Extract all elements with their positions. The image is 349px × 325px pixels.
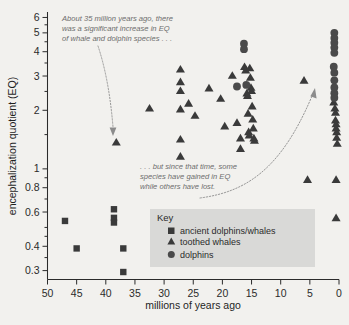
point-ancient-dolphin-whale [111,206,117,212]
x-tick-label-3: 35 [129,287,141,299]
point-dolphin [330,49,338,57]
annotation-increase-line-1: About 35 million years ago, there [61,14,173,23]
scatter-plot: 6543210.80.60.40.3 50454035302520151050 … [0,0,349,325]
annotation-increase-line-3: of whale and dolphin species . . . [62,34,172,43]
legend-circle-marker [168,251,175,258]
point-dolphin [233,83,241,91]
point-dolphin [240,45,248,53]
x-tick-label-0: 50 [42,287,54,299]
annotation-divergence-line-3: while others have lost. [140,182,215,191]
y-tick-label-4: 2 [34,104,40,116]
point-ancient-dolphin-whale [73,245,79,251]
point-ancient-dolphin-whale [120,269,126,275]
legend: Key ancient dolphins/whales toothed whal… [150,209,315,267]
point-ancient-dolphin-whale [111,219,117,225]
annotation-divergence-line-2: species have gained in EQ [140,172,230,181]
x-tick-label-10: 0 [336,287,342,299]
y-tick-label-3: 3 [34,70,40,82]
y-tick-label-0: 6 [34,11,40,23]
y-tick-label-8: 0.4 [25,240,40,252]
x-tick-label-1: 45 [71,287,83,299]
x-tick-label-5: 25 [187,287,199,299]
x-tick-label-4: 30 [158,287,170,299]
x-tick-label-6: 20 [217,287,229,299]
x-tick-label-8: 10 [275,287,287,299]
legend-title: Key [157,212,174,223]
y-tick-label-2: 4 [34,45,40,57]
annotation-increase-line-2: was a significant increase in EQ [62,24,170,33]
y-tick-label-5: 1 [34,162,40,174]
x-tick-label-2: 40 [100,287,112,299]
y-tick-label-9: 0.3 [25,264,40,276]
legend-label-toothed: toothed whales [180,237,241,247]
point-dolphin [330,69,338,77]
legend-label-ancient: ancient dolphins/whales [180,226,276,236]
legend-square-marker [168,228,175,235]
annotation-divergence-line-1: . . . but since that time, some [140,162,237,171]
point-dolphin [242,81,250,89]
y-tick-label-6: 0.8 [25,181,40,193]
y-tick-label-7: 0.6 [25,206,40,218]
x-tick-label-7: 15 [246,287,258,299]
x-axis-title: millions of years ago [145,299,241,311]
point-ancient-dolphin-whale [62,218,68,224]
point-dolphin [330,76,338,84]
chart-figure: 6543210.80.60.40.3 50454035302520151050 … [0,0,349,325]
point-ancient-dolphin-whale [120,245,126,251]
y-axis-title: encephalization quotient (EQ) [6,77,18,215]
point-dolphin [330,94,338,102]
y-tick-label-1: 5 [34,26,40,38]
x-tick-label-9: 5 [307,287,313,299]
legend-label-dolphins: dolphins [180,250,214,260]
